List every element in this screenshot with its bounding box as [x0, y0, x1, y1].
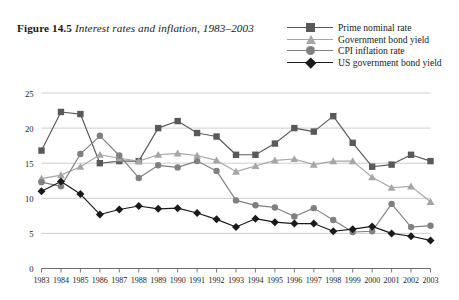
x-axis-tick-label: 2000	[364, 276, 380, 285]
data-point-square	[155, 125, 161, 131]
x-axis-tick-label: 1995	[267, 276, 283, 285]
data-point-diamond	[174, 204, 182, 212]
chart-legend: Prime nominal rate Government bond yield…	[287, 22, 442, 68]
data-point-square	[369, 164, 375, 170]
data-point-square	[174, 118, 180, 124]
data-point-circle	[194, 158, 200, 164]
x-axis-tick-label: 1997	[306, 276, 322, 285]
legend-item-prime-nominal-rate: Prime nominal rate	[287, 22, 442, 34]
data-point-diamond	[135, 202, 143, 210]
x-axis-tick-label: 2002	[403, 276, 419, 285]
legend-swatch-circle	[287, 45, 333, 57]
data-point-square	[38, 147, 44, 153]
square-icon	[306, 23, 315, 32]
data-point-triangle	[96, 151, 104, 158]
data-point-triangle	[76, 163, 84, 170]
data-point-diamond	[38, 187, 46, 195]
data-point-square	[388, 161, 394, 167]
data-point-diamond	[213, 215, 221, 223]
x-axis-tick-label: 1992	[209, 276, 225, 285]
x-axis-tick-label: 1988	[131, 276, 147, 285]
legend-label: Prime nominal rate	[338, 22, 412, 34]
data-point-square	[97, 160, 103, 166]
data-point-circle	[155, 162, 161, 168]
x-axis-tick-label: 1984	[53, 276, 69, 285]
x-axis-tick-label: 1989	[150, 276, 166, 285]
data-point-square	[58, 109, 64, 115]
data-point-diamond	[310, 220, 318, 228]
data-point-square	[311, 128, 317, 134]
y-axis-tick-label: 15	[25, 159, 34, 169]
data-point-square	[330, 113, 336, 119]
x-axis-tick-label: 1983	[34, 276, 50, 285]
figure-caption: Interest rates and inflation, 1983–2003	[75, 22, 254, 34]
data-point-diamond	[232, 223, 240, 231]
data-point-square	[427, 158, 433, 164]
data-point-diamond	[115, 206, 123, 214]
x-axis-tick-label: 1999	[345, 276, 361, 285]
legend-swatch-triangle	[287, 34, 333, 46]
series-line	[42, 112, 431, 167]
legend-item-cpi-inflation-rate: CPI inflation rate	[287, 45, 442, 57]
x-axis-tick-label: 1993	[228, 276, 244, 285]
data-point-diamond	[251, 215, 259, 223]
data-point-square	[194, 130, 200, 136]
legend-item-government-bond-yield: Government bond yield	[287, 34, 442, 46]
legend-item-us-government-bond-yield: US government bond yield	[287, 57, 442, 69]
data-point-circle	[291, 213, 297, 219]
data-point-circle	[272, 204, 278, 210]
figure-container: Figure 14.5 Interest rates and inflation…	[0, 0, 459, 300]
data-point-square	[272, 140, 278, 146]
data-point-triangle	[57, 171, 65, 178]
data-point-circle	[116, 152, 122, 158]
data-point-square	[213, 133, 219, 139]
data-point-circle	[388, 201, 394, 207]
data-point-diamond	[329, 227, 337, 235]
data-point-square	[252, 152, 258, 158]
data-point-diamond	[193, 209, 201, 217]
data-point-square	[408, 152, 414, 158]
data-point-circle	[233, 197, 239, 203]
figure-title: Figure 14.5 Interest rates and inflation…	[17, 22, 254, 34]
series-prime-nominal-rate	[38, 109, 433, 170]
y-axis-tick-label: 25	[25, 89, 34, 99]
data-point-square	[77, 111, 83, 117]
data-point-circle	[77, 151, 83, 157]
data-point-circle	[174, 164, 180, 170]
x-axis-tick-label: 1986	[92, 276, 108, 285]
data-point-circle	[311, 205, 317, 211]
data-point-diamond	[154, 205, 162, 213]
legend-swatch-diamond	[287, 57, 333, 69]
data-point-circle	[38, 179, 44, 185]
data-point-circle	[252, 202, 258, 208]
data-point-circle	[427, 222, 433, 228]
y-axis-tick-label: 10	[25, 194, 34, 204]
data-point-circle	[330, 217, 336, 223]
data-point-square	[350, 140, 356, 146]
data-point-square	[233, 152, 239, 158]
legend-label: CPI inflation rate	[338, 45, 405, 57]
x-axis-tick-label: 1994	[247, 276, 263, 285]
x-axis-tick-label: 1998	[325, 276, 341, 285]
y-axis-tick-label: 20	[25, 124, 34, 134]
x-axis-tick-label: 2001	[384, 276, 400, 285]
data-point-diamond	[290, 220, 298, 228]
data-point-diamond	[57, 177, 65, 185]
legend-label: Government bond yield	[338, 34, 429, 46]
x-axis-tick-label: 1985	[72, 276, 88, 285]
data-point-circle	[408, 224, 414, 230]
x-axis-tick-label: 2003	[423, 276, 439, 285]
data-point-square	[291, 125, 297, 131]
legend-swatch-square	[287, 22, 333, 34]
x-axis-tick-label: 1990	[170, 276, 186, 285]
series-cpi-inflation-rate	[38, 133, 433, 236]
data-point-diamond	[368, 222, 376, 230]
data-point-diamond	[271, 218, 279, 226]
data-point-circle	[97, 133, 103, 139]
x-axis-tick-label: 1991	[189, 276, 205, 285]
figure-number: Figure 14.5	[17, 22, 72, 34]
data-point-diamond	[427, 236, 435, 244]
diamond-icon	[305, 57, 316, 68]
x-axis-tick-label: 1987	[111, 276, 127, 285]
data-point-circle	[213, 168, 219, 174]
